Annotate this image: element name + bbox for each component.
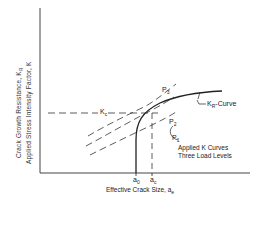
applied-k-curve-p1 — [90, 112, 176, 155]
p3-sub: 3 — [167, 89, 170, 95]
applied-curves-line1: Applied K Curves — [178, 144, 232, 152]
p1-sub: 1 — [177, 137, 180, 143]
y-axis-label-kr-text: Crack Growth Resistance, K — [15, 71, 22, 158]
y-axis-label-kr: Crack Growth Resistance, KR — [15, 67, 24, 158]
kr-curve-label-suffix: -Curve — [215, 100, 236, 107]
ac-sub: c — [154, 179, 157, 185]
p2-label: P2 — [169, 118, 176, 128]
kc-label-sub: c — [105, 111, 108, 117]
applied-curves-line2: Three Load Levels — [178, 152, 232, 160]
applied-k-curve-p2 — [86, 97, 174, 146]
applied-curves-label: Applied K Curves Three Load Levels — [178, 144, 232, 160]
x-axis-label-text: Effective Crack Size, a — [106, 186, 171, 193]
kr-leader-hook — [197, 100, 206, 104]
p1-label: P1 — [172, 134, 179, 144]
x-axis-label: Effective Crack Size, ae — [106, 186, 174, 196]
y-axis-label-k-text: Applied Stress Intensity Factor, K — [25, 61, 32, 164]
x-axis-label-sub: e — [171, 189, 174, 195]
ac-label: ac — [150, 176, 156, 186]
a0-sub: 0 — [137, 179, 140, 185]
p3-label: P3 — [162, 86, 169, 96]
y-axis-label-k: Applied Stress Intensity Factor, K — [25, 61, 32, 164]
kr-curve-label: KR-Curve — [207, 100, 236, 110]
p2-sub: 2 — [174, 121, 177, 127]
kc-label: Kc — [100, 108, 107, 118]
y-axis-label-kr-sub: R — [18, 67, 24, 71]
a0-label: a0 — [133, 176, 140, 186]
